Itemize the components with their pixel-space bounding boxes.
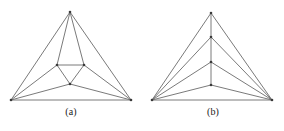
graph-vertex: [210, 36, 213, 39]
graph-edge: [152, 37, 211, 100]
caption-a: (a): [0, 105, 142, 119]
graph-edge: [57, 12, 70, 65]
graph-vertex: [10, 99, 13, 102]
graph-diagram-b: [142, 0, 284, 108]
figure-panel-b: (b): [142, 0, 284, 131]
graph-vertices: [151, 12, 274, 102]
figure-panel-a: (a): [0, 0, 142, 131]
graph-edge: [70, 12, 84, 65]
graph-vertex: [151, 99, 154, 102]
figure-container: (a) (b): [0, 0, 284, 131]
graph-edge: [57, 65, 70, 84]
graph-edges: [11, 12, 131, 100]
graph-vertex: [69, 83, 72, 86]
graph-vertex: [130, 99, 133, 102]
graph-edges: [152, 13, 272, 100]
graph-edge: [152, 62, 211, 100]
graph-vertex: [83, 64, 86, 67]
graph-vertex: [271, 99, 274, 102]
graph-edge: [211, 37, 272, 100]
graph-diagram-a: [0, 0, 142, 108]
graph-vertex: [210, 84, 213, 87]
graph-edge: [84, 65, 131, 100]
graph-vertex: [56, 64, 59, 67]
graph-edge: [70, 65, 84, 84]
graph-vertex: [210, 61, 213, 64]
graph-edge: [11, 65, 57, 100]
graph-edge: [211, 62, 272, 100]
graph-vertex: [210, 12, 213, 15]
caption-b: (b): [142, 105, 284, 119]
graph-vertex: [69, 11, 72, 14]
